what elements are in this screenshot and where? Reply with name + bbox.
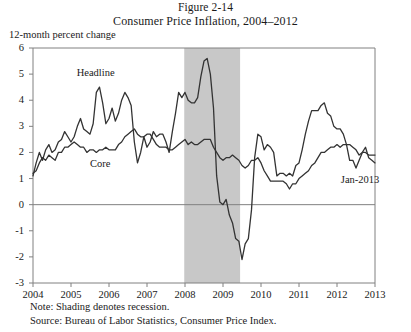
figure-note: Note: Shading denotes recession. — [30, 301, 169, 313]
recession-shading — [184, 48, 240, 283]
x-tick-label: 2008 — [168, 289, 202, 300]
annotation-headline: Headline — [77, 67, 115, 79]
y-tick-label: -3 — [6, 277, 24, 288]
y-tick-label: 0 — [6, 199, 24, 210]
x-tick-label: 2006 — [92, 289, 126, 300]
figure-source: Source: Bureau of Labor Statistics, Cons… — [30, 315, 276, 327]
y-tick-label: -1 — [6, 225, 24, 236]
x-tick-label: 2005 — [54, 289, 88, 300]
y-tick-label: -2 — [6, 251, 24, 262]
y-tick-label: 6 — [6, 42, 24, 53]
annotation-core: Core — [90, 158, 110, 170]
x-tick-label: 2004 — [16, 289, 50, 300]
x-tick-label: 2010 — [244, 289, 278, 300]
x-tick-label: 2012 — [320, 289, 354, 300]
chart-plot-area — [0, 0, 411, 332]
annotation-jan-2013: Jan-2013 — [341, 174, 380, 186]
recession-shading-group — [184, 48, 240, 283]
figure-container: Figure 2-14 Consumer Price Inflation, 20… — [0, 0, 411, 332]
y-tick-label: 5 — [6, 68, 24, 79]
x-tick-label: 2007 — [130, 289, 164, 300]
x-tick-label: 2009 — [206, 289, 240, 300]
x-tick-label: 2013 — [358, 289, 392, 300]
y-tick-label: 2 — [6, 146, 24, 157]
y-tick-label: 1 — [6, 173, 24, 184]
y-tick-label: 4 — [6, 94, 24, 105]
y-tick-label: 3 — [6, 120, 24, 131]
x-tick-label: 2011 — [282, 289, 316, 300]
